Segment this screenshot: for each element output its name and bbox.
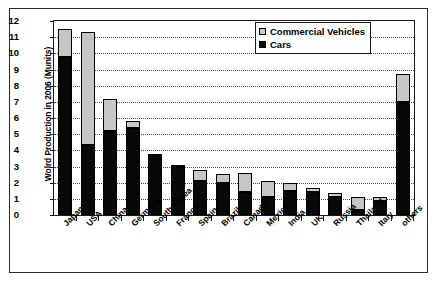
y-tick-mark: [50, 102, 54, 103]
bar-brazil: [216, 21, 230, 215]
y-tick-mark: [50, 150, 54, 151]
y-tick-mark: [50, 21, 54, 22]
bar-italy: [373, 21, 387, 215]
y-tick-label: 11: [0, 31, 19, 42]
cars-swatch-icon: [259, 41, 266, 48]
bar-japan: [58, 21, 72, 215]
bar-segment-cars: [81, 145, 95, 215]
y-tick-mark: [50, 37, 54, 38]
bar-segment-commercial-vehicles: [58, 29, 72, 56]
y-axis-title: Wolrd Production in 2006 (Munits): [43, 14, 53, 214]
bar-germany: [126, 21, 140, 215]
legend-label-cars: Cars: [270, 39, 291, 50]
legend-item-commercial-vehicles: Commercial Vehicles: [259, 25, 365, 38]
bar-segment-commercial-vehicles: [193, 170, 207, 181]
y-tick-label: 9: [0, 63, 19, 74]
bar-segment-commercial-vehicles: [103, 99, 117, 131]
y-tick-mark: [50, 134, 54, 135]
bar-canada: [238, 21, 252, 215]
commercial-vehicles-swatch-icon: [259, 28, 266, 35]
y-tick-mark: [50, 70, 54, 71]
y-tick-mark: [50, 118, 54, 119]
bar-segment-cars: [103, 131, 117, 215]
y-tick-label: 7: [0, 95, 19, 106]
bar-segment-commercial-vehicles: [283, 183, 297, 190]
y-tick-mark: [50, 86, 54, 87]
y-tick-label: 2: [0, 176, 19, 187]
legend-label-commercial-vehicles: Commercial Vehicles: [270, 26, 365, 37]
bar-segment-commercial-vehicles: [216, 174, 230, 183]
bar-segment-commercial-vehicles: [396, 74, 410, 101]
bar-south-korea: [148, 21, 162, 215]
y-tick-label: 0: [0, 209, 19, 220]
y-tick-label: 8: [0, 79, 19, 90]
y-tick-label: 12: [0, 15, 19, 26]
y-tick-label: 4: [0, 144, 19, 155]
bar-spain: [193, 21, 207, 215]
y-tick-mark: [50, 167, 54, 168]
y-tick-mark: [50, 199, 54, 200]
bar-others: [396, 21, 410, 215]
bar-usa: [81, 21, 95, 215]
bar-segment-commercial-vehicles: [261, 181, 275, 197]
bar-segment-commercial-vehicles: [238, 173, 252, 192]
legend-item-cars: Cars: [259, 38, 365, 51]
y-tick-mark: [50, 183, 54, 184]
bar-segment-cars: [58, 57, 72, 215]
y-tick-label: 3: [0, 160, 19, 171]
bar-segment-cars: [126, 128, 140, 215]
bar-china: [103, 21, 117, 215]
bar-segment-commercial-vehicles: [81, 32, 95, 144]
chart-frame: Wolrd Production in 2006 (Munits) Commer…: [9, 8, 428, 273]
chart-legend: Commercial Vehicles Cars: [255, 22, 371, 54]
y-tick-label: 10: [0, 47, 19, 58]
y-tick-mark: [50, 215, 54, 216]
y-tick-label: 5: [0, 128, 19, 139]
bar-france: [171, 21, 185, 215]
y-tick-mark: [50, 53, 54, 54]
y-tick-label: 6: [0, 112, 19, 123]
y-tick-label: 1: [0, 192, 19, 203]
bar-segment-cars: [396, 102, 410, 215]
